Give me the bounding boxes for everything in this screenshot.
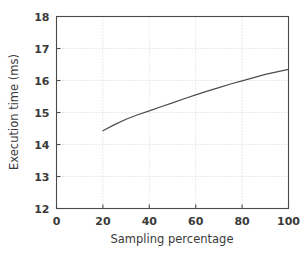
y-tick-label: 14: [34, 139, 50, 152]
x-tick-label: 80: [234, 215, 250, 228]
x-tick-label: 20: [95, 215, 111, 228]
y-tick-label: 18: [34, 11, 49, 24]
y-tick-label: 15: [34, 107, 49, 120]
y-tick-label: 12: [34, 203, 49, 216]
y-axis-title: Execution time (ms): [7, 54, 21, 170]
x-tick-label: 100: [277, 215, 300, 228]
x-axis-title: Sampling percentage: [111, 232, 234, 246]
x-tick-label: 0: [53, 215, 61, 228]
x-tick-label: 60: [188, 215, 204, 228]
y-tick-label: 13: [34, 171, 49, 184]
chart-figure: 020406080100 12131415161718 Sampling per…: [0, 0, 306, 259]
x-tick-label: 40: [142, 215, 158, 228]
execution-time-line-chart: 020406080100 12131415161718 Sampling per…: [0, 0, 306, 259]
y-tick-label: 17: [34, 43, 49, 56]
y-tick-label: 16: [34, 75, 50, 88]
